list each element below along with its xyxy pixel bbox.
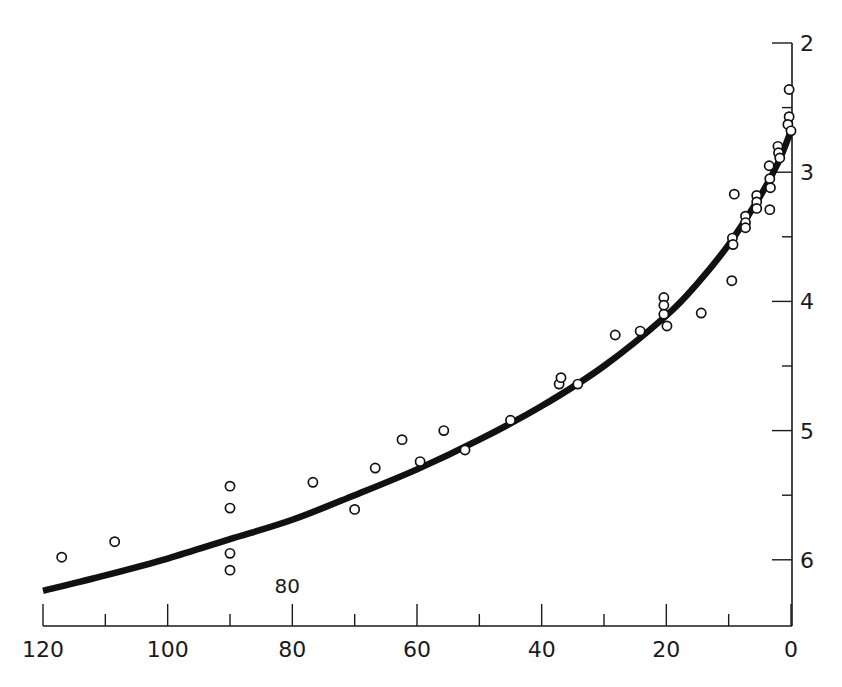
axes [43,43,792,626]
data-point-marker [697,308,706,317]
x-tick-label: 20 [652,637,680,662]
data-point-marker [460,445,469,454]
data-point-marker [659,301,668,310]
chart: 1201008060402002345680 [0,0,842,687]
data-point-marker [397,435,406,444]
data-point-marker [775,153,784,162]
x-tick-label: 0 [784,637,798,662]
data-point-marker [416,457,425,466]
data-point-marker [506,416,515,425]
data-point-marker [225,566,234,575]
data-point-marker [611,330,620,339]
x-tick-label: 40 [528,637,556,662]
data-point-marker [57,553,66,562]
data-point-marker [225,549,234,558]
y-tick-label: 3 [800,160,814,185]
data-point-marker [225,482,234,491]
data-point-marker [730,190,739,199]
data-point-marker [573,379,582,388]
data-point-marker [727,276,736,285]
x-tick-label: 60 [403,637,431,662]
data-point-marker [766,183,775,192]
y-tick-label: 5 [800,419,814,444]
data-point-marker [765,174,774,183]
x-tick-label: 100 [147,637,189,662]
data-point-marker [350,505,359,514]
y-tick-label: 2 [800,31,814,56]
fitted-curve-line [43,131,791,591]
data-point-marker [765,205,774,214]
data-point-marker [662,321,671,330]
x-tick-label: 120 [22,637,64,662]
data-point-marker [785,85,794,94]
y-tick-label: 6 [800,548,814,573]
data-point-marker [728,240,737,249]
data-point-marker [225,504,234,513]
data-points [57,85,796,575]
x-tick-label: 80 [278,637,306,662]
data-point-marker [765,161,774,170]
data-point-marker [371,463,380,472]
data-point-marker [439,426,448,435]
annotation-label: 80 [275,574,300,598]
data-point-marker [308,478,317,487]
data-point-marker [110,537,119,546]
data-point-marker [636,327,645,336]
data-point-marker [659,310,668,319]
data-point-marker [786,126,795,135]
fitted-curve [43,131,791,591]
data-point-marker [752,204,761,213]
data-point-marker [741,223,750,232]
data-point-marker [556,373,565,382]
y-tick-label: 4 [800,289,814,314]
